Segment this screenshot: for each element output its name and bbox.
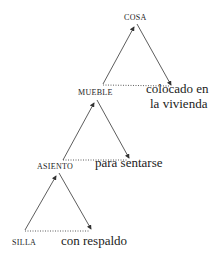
feature-silla: con respaldo [61, 234, 127, 248]
node-cosa: COSA [124, 13, 147, 22]
feature-asiento: para sentarse [95, 156, 163, 170]
triangle-asiento [25, 173, 91, 231]
node-asiento: ASIENTO [37, 162, 73, 171]
node-silla: SILLA [12, 238, 36, 247]
node-mueble: MUEBLE [78, 88, 113, 97]
diagram-canvas [0, 0, 216, 258]
triangle-cosa [103, 24, 171, 86]
triangle-mueble [63, 100, 129, 160]
feature-mueble-line2: la vivienda [150, 97, 207, 111]
feature-mueble-line1: colocado en [146, 82, 208, 96]
